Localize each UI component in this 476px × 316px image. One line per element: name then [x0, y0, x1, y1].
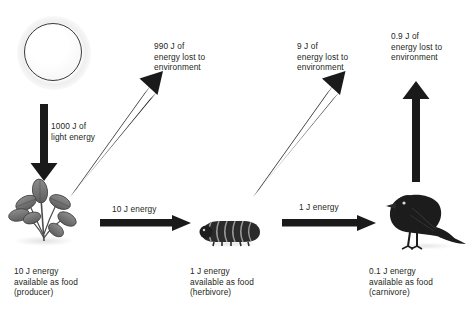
label-loss-herbivore: 9 J of energy lost to environment: [297, 41, 348, 73]
arrow-light-energy: [31, 104, 58, 181]
label-light-energy: 1000 J of light energy: [51, 121, 95, 142]
arrow-transfer-caterpillar-bird: [282, 215, 376, 231]
label-loss-producer: 990 J of energy lost to environment: [154, 41, 205, 73]
label-producer: 10 J energy available as food (producer): [14, 266, 78, 298]
arrow-loss-carnivore: [403, 81, 430, 182]
label-transfer-caterpillar-bird: 1 J energy: [299, 202, 339, 213]
arrow-transfer-plant-caterpillar: [100, 215, 191, 231]
label-transfer-plant-caterpillar: 10 J energy: [112, 204, 156, 215]
label-herbivore: 1 J energy available as food (herbivore): [190, 266, 254, 298]
plant-icon: [7, 178, 78, 246]
caterpillar-icon: [200, 221, 261, 248]
arrow-loss-herbivore: [253, 71, 346, 197]
label-carnivore: 0.1 J energy available as food (carnivor…: [369, 266, 433, 298]
label-loss-carnivore: 0.9 J of energy lost to environment: [391, 31, 442, 63]
energy-flow-diagram: 1000 J of light energy 990 J of energy l…: [0, 0, 476, 316]
bird-icon: [386, 195, 466, 250]
